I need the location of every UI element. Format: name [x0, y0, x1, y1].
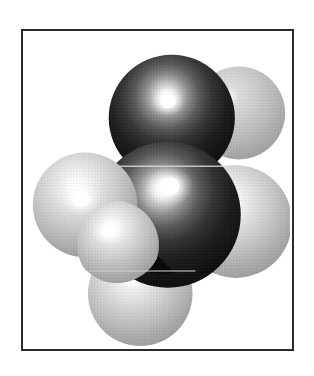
illustration-frame	[21, 29, 294, 351]
figure-root	[0, 0, 314, 376]
molecule-space-filling-model	[23, 31, 292, 349]
